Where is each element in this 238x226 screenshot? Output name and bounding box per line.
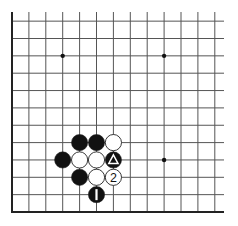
star-point-icon xyxy=(162,158,166,162)
stone-icon xyxy=(72,152,88,168)
stones-layer: 2 xyxy=(55,135,122,203)
black-stone xyxy=(72,135,88,151)
white-stone xyxy=(72,152,88,168)
black-stone xyxy=(88,187,104,203)
black-stone xyxy=(88,135,104,151)
stone-icon xyxy=(88,169,104,185)
stone-icon xyxy=(72,169,88,185)
stone-icon xyxy=(105,135,121,151)
white-stone xyxy=(105,135,121,151)
stone-icon xyxy=(55,152,71,168)
stone-icon xyxy=(72,135,88,151)
star-point-icon xyxy=(162,54,166,58)
white-stone xyxy=(88,152,104,168)
white-stone xyxy=(88,169,104,185)
black-stone xyxy=(105,152,121,168)
star-point-icon xyxy=(61,54,65,58)
black-stone xyxy=(72,169,88,185)
stone-icon xyxy=(88,135,104,151)
move-number-label: 2 xyxy=(110,171,117,185)
black-stone xyxy=(55,152,71,168)
move-number-1 xyxy=(95,189,97,200)
go-board: 2 xyxy=(0,0,238,226)
white-stone: 2 xyxy=(105,169,121,185)
stone-icon xyxy=(88,152,104,168)
